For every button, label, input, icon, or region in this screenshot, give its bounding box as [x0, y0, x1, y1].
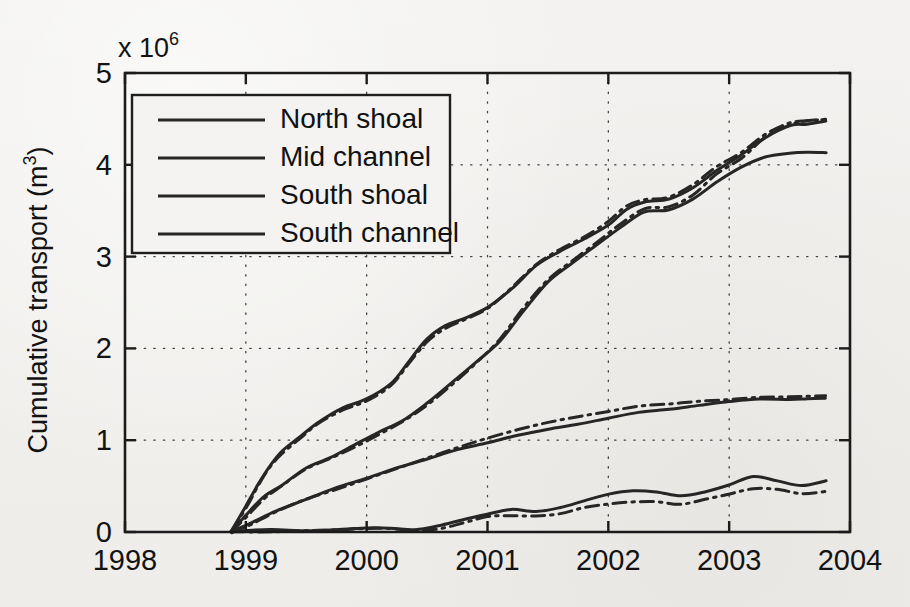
exponent-prefix: x 10 — [118, 33, 169, 63]
y-axis-tick-labels: 012345 — [96, 57, 112, 548]
exponent-power: 6 — [169, 29, 179, 49]
y-tick-label-1: 1 — [96, 424, 112, 456]
y-tick-label-5: 5 — [96, 57, 112, 89]
x-tick-label-2004: 2004 — [818, 544, 883, 576]
x-tick-label-2003: 2003 — [697, 544, 762, 576]
legend-label-south-channel: South channel — [280, 217, 459, 248]
y-tick-label-4: 4 — [96, 149, 112, 181]
y-axis-title-close: ) — [23, 146, 53, 155]
y-axis-title-superscript: 3 — [20, 155, 40, 165]
legend-label-mid-channel: Mid channel — [280, 141, 431, 172]
legend-label-north-shoal: North shoal — [280, 103, 423, 134]
y-axis-title: Cumulative transport (m3) — [20, 146, 53, 453]
x-tick-label-2000: 2000 — [334, 544, 399, 576]
x-tick-label-2002: 2002 — [576, 544, 641, 576]
y-axis-exponent: x 106 — [118, 29, 179, 63]
series-line-south-channel — [231, 476, 826, 531]
cumulative-transport-chart: 012345 1998199920002001200220032004 x 10… — [0, 0, 910, 607]
x-axis-tick-labels: 1998199920002001200220032004 — [93, 544, 883, 576]
legend-label-south-shoal: South shoal — [280, 179, 428, 210]
x-tick-label-1999: 1999 — [214, 544, 279, 576]
legend[interactable]: North shoalMid channelSouth shoalSouth c… — [132, 95, 459, 253]
x-tick-label-1998: 1998 — [93, 544, 158, 576]
x-tick-label-2001: 2001 — [455, 544, 520, 576]
y-tick-label-3: 3 — [96, 241, 112, 273]
figure-canvas: 012345 1998199920002001200220032004 x 10… — [0, 0, 910, 607]
y-tick-label-2: 2 — [96, 332, 112, 364]
y-axis-title-base: Cumulative transport (m — [23, 165, 53, 453]
